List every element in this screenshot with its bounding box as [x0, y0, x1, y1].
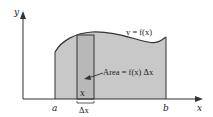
bound-a-label: a — [52, 103, 57, 113]
area-annotation: Area = f(x) Δx — [103, 67, 154, 77]
x-axis-arrow-icon — [195, 96, 203, 102]
bound-b-label: b — [163, 103, 169, 113]
y-axis-label: y — [13, 7, 20, 17]
x-axis-label: x — [197, 103, 202, 113]
strip-x-label: x — [80, 88, 85, 98]
y-axis-arrow-icon — [20, 11, 26, 19]
delta-x-brace — [77, 101, 94, 103]
riemann-strip-diagram: y x y = f(x) a b x Δx Area = f(x) Δx — [0, 0, 213, 117]
curve-label: y = f(x) — [126, 27, 152, 37]
delta-x-label: Δx — [79, 105, 89, 115]
